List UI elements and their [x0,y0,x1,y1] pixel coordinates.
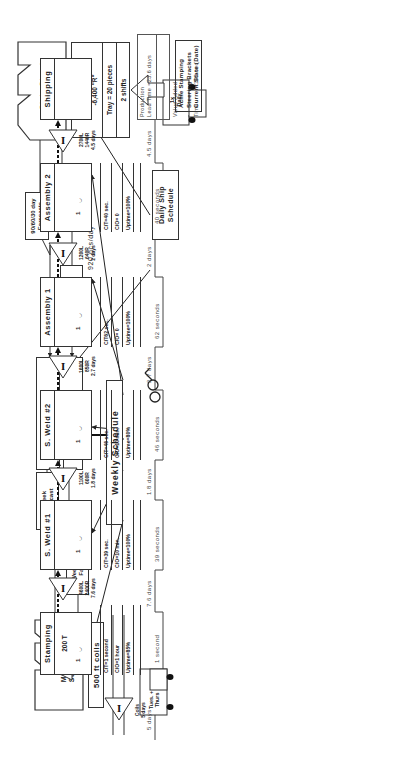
raw-inventory-label: Coils 5 days [134,695,146,725]
svg-text:I: I [61,135,65,147]
svg-text:I: I [61,473,65,485]
process-time-2: 39 seconds [154,526,160,562]
data-box-assembly-1: C/T62 sec. C/O= 0 Uptime=100% [100,277,141,347]
wait-time-5: 2 days [146,246,152,267]
process-time-4: 62 seconds [154,303,160,339]
data-box-assembly-2: C/T=40 sec. C/O= 0 Uptime=100% [100,163,141,232]
map-title-box: Acme Stamping Steering Brackets Current … [175,40,202,112]
svg-text:I: I [117,703,121,715]
svg-text:I: I [61,361,65,373]
wait-time-2: 7.6 days [146,580,152,607]
inventory-label-1: 4600L 2400R 7.6 days [78,573,96,603]
data-box-s-weld-1: C/T=39 sec. C/O=10 min. Uptime=100% [100,500,141,570]
value-stream-map: State Street Assembly 18,400 pcs/mo -12,… [0,0,415,775]
svg-text:I: I [61,248,65,260]
wait-time-1: 5 days [146,709,152,730]
data-box-stamping: C/T=1 second C/O=1 hour Uptime=85% [100,605,141,675]
inventory-label-5: 2700L 1440R 4.5 days [78,125,96,155]
process-time-3: 46 seconds [154,416,160,452]
svg-text:I: I [61,583,65,595]
lead-time-summary-box: Production Lead Time =23.6 days Value Ad… [137,34,170,120]
inventory-label-2: 1100L 600R 1.8 days [78,463,96,493]
process-time-5: 40 seconds [154,188,160,224]
process-time-1: 1 second [154,635,160,663]
inventory-label-3: 1600L 850R 2.7 days [78,351,96,381]
inventory-label-4: 1200L 640R 2 days [78,238,96,268]
data-box-s-weld-2: C/T=46 sec. C/O=10 min. Uptime=80% [100,390,141,460]
wait-time-6: 4.5 days [146,130,152,157]
wait-time-4: 2.7 days [146,356,152,383]
wait-time-3: 1.8 days [146,468,152,495]
